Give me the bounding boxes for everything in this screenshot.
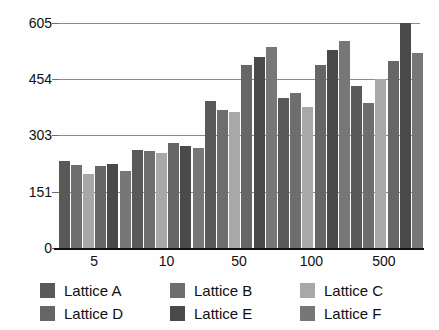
- x-axis-tick-labels: 51050100500: [58, 252, 420, 272]
- bar-group-500: [351, 23, 424, 248]
- x-tick-label-100: 100: [275, 252, 347, 272]
- bar-lattice-a-50[interactable]: [205, 101, 216, 248]
- y-tick-label: 605: [29, 16, 52, 30]
- bar-chart: 0151303454605 51050100500 Lattice ALatti…: [0, 0, 439, 330]
- legend-swatch-icon: [170, 283, 185, 298]
- bar-group-100: [277, 23, 350, 248]
- bar-lattice-e-100[interactable]: [327, 50, 338, 248]
- bar-lattice-f-10[interactable]: [193, 148, 204, 248]
- bar-lattice-b-500[interactable]: [363, 103, 374, 248]
- legend-item-lattice-f[interactable]: Lattice F: [300, 302, 430, 325]
- legend-label: Lattice B: [194, 283, 252, 298]
- bar-lattice-f-50[interactable]: [266, 47, 277, 248]
- legend: Lattice ALattice BLattice CLattice DLatt…: [40, 279, 430, 325]
- y-tick-label: 0: [44, 241, 52, 255]
- bar-lattice-b-10[interactable]: [144, 151, 155, 248]
- bar-lattice-d-10[interactable]: [168, 143, 179, 248]
- bar-lattice-a-100[interactable]: [278, 98, 289, 248]
- bar-lattice-e-50[interactable]: [254, 57, 265, 248]
- bar-lattice-a-5[interactable]: [59, 161, 70, 248]
- x-tick-label-500: 500: [348, 252, 420, 272]
- plot-area: [58, 23, 420, 248]
- legend-item-lattice-a[interactable]: Lattice A: [40, 279, 170, 302]
- bar-lattice-d-5[interactable]: [95, 166, 106, 248]
- legend-swatch-icon: [300, 283, 315, 298]
- legend-swatch-icon: [300, 306, 315, 321]
- bar-lattice-d-50[interactable]: [241, 65, 252, 248]
- bar-lattice-f-5[interactable]: [120, 171, 131, 248]
- bar-lattice-f-100[interactable]: [339, 41, 350, 248]
- legend-label: Lattice F: [324, 306, 382, 321]
- bar-group-5: [58, 23, 131, 248]
- bar-lattice-d-100[interactable]: [315, 65, 326, 248]
- bar-lattice-c-50[interactable]: [229, 112, 240, 248]
- y-tick-label: 303: [29, 128, 52, 142]
- bar-lattice-b-50[interactable]: [217, 110, 228, 248]
- legend-swatch-icon: [40, 306, 55, 321]
- bar-lattice-c-100[interactable]: [302, 107, 313, 248]
- bar-lattice-e-10[interactable]: [180, 146, 191, 248]
- x-tick-label-50: 50: [203, 252, 275, 272]
- bar-lattice-f-500[interactable]: [412, 53, 423, 248]
- legend-label: Lattice E: [194, 306, 252, 321]
- x-tick-label-5: 5: [58, 252, 130, 272]
- legend-item-lattice-d[interactable]: Lattice D: [40, 302, 170, 325]
- bar-lattice-e-500[interactable]: [400, 23, 411, 248]
- legend-label: Lattice C: [324, 283, 383, 298]
- bar-group-50: [204, 23, 277, 248]
- bar-groups: [58, 23, 420, 248]
- y-tick-label: 454: [29, 72, 52, 86]
- legend-swatch-icon: [170, 306, 185, 321]
- legend-label: Lattice D: [64, 306, 123, 321]
- legend-swatch-icon: [40, 283, 55, 298]
- legend-item-lattice-c[interactable]: Lattice C: [300, 279, 430, 302]
- legend-item-lattice-b[interactable]: Lattice B: [170, 279, 300, 302]
- x-tick-label-10: 10: [130, 252, 202, 272]
- y-tick-label: 151: [29, 185, 52, 199]
- legend-item-lattice-e[interactable]: Lattice E: [170, 302, 300, 325]
- bar-lattice-c-5[interactable]: [83, 174, 94, 248]
- x-axis-line: [54, 248, 424, 250]
- bar-group-10: [131, 23, 204, 248]
- bar-lattice-b-100[interactable]: [290, 93, 301, 248]
- bar-lattice-e-5[interactable]: [107, 164, 118, 248]
- bar-lattice-b-5[interactable]: [71, 165, 82, 248]
- bar-lattice-a-500[interactable]: [351, 86, 362, 248]
- legend-label: Lattice A: [64, 283, 122, 298]
- bar-lattice-c-10[interactable]: [156, 153, 167, 248]
- bar-lattice-c-500[interactable]: [375, 79, 386, 248]
- bar-lattice-d-500[interactable]: [388, 61, 399, 248]
- bar-lattice-a-10[interactable]: [132, 150, 143, 248]
